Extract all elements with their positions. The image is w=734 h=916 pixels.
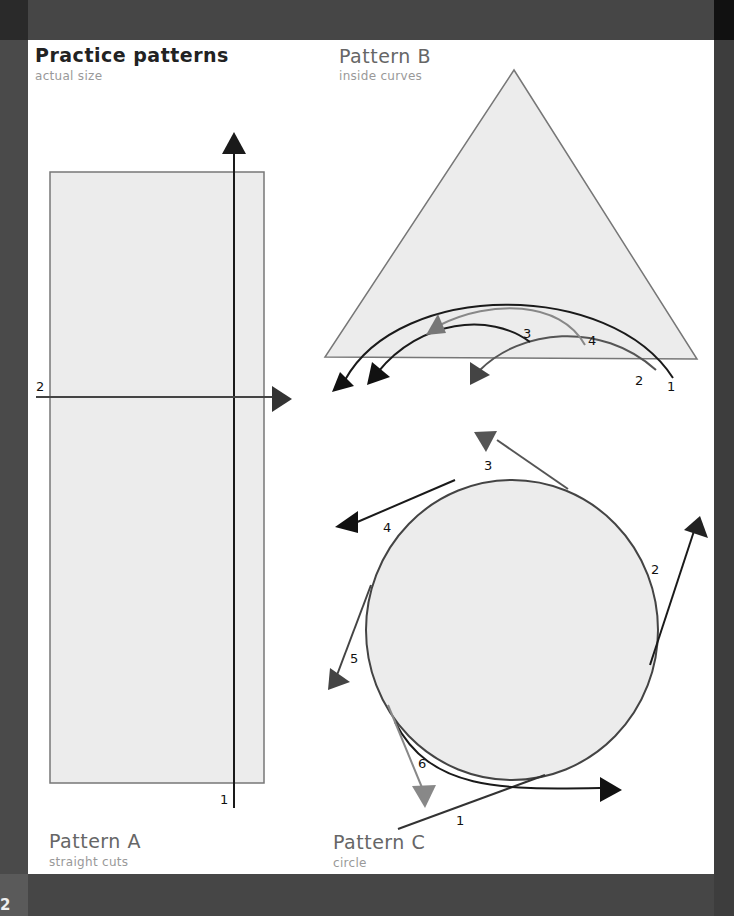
arrow-icon — [474, 431, 497, 452]
pattern-c-subtitle: circle — [333, 857, 367, 869]
pattern-c-cut-2: 2 — [650, 516, 708, 665]
pattern-a-subtitle: straight cuts — [49, 856, 128, 868]
svg-text:1: 1 — [220, 792, 228, 807]
svg-text:1: 1 — [667, 379, 675, 394]
arrow-up-icon — [222, 132, 246, 154]
pattern-b-shape — [325, 70, 697, 359]
page-title: Practice patterns — [35, 46, 229, 65]
pattern-b-subtitle: inside curves — [339, 70, 422, 82]
svg-text:5: 5 — [350, 651, 358, 666]
svg-text:1: 1 — [456, 813, 464, 828]
arrow-right-icon — [272, 386, 292, 412]
page-subtitle: actual size — [35, 70, 102, 82]
svg-text:6: 6 — [418, 756, 426, 771]
svg-text:4: 4 — [588, 333, 596, 348]
frame-right — [714, 0, 734, 916]
patterns-artwork: 1 2 1 2 3 4 — [28, 40, 714, 874]
pattern-a-shape — [50, 172, 264, 783]
arrow-icon — [684, 516, 708, 538]
pattern-a-title: Pattern A — [49, 832, 141, 851]
pattern-c-title: Pattern C — [333, 833, 425, 852]
arrow-icon — [367, 362, 390, 385]
svg-text:2: 2 — [635, 373, 643, 388]
frame-corner — [0, 0, 28, 40]
svg-text:2: 2 — [651, 562, 659, 577]
pattern-c-shape — [366, 480, 658, 780]
page: 1 2 1 2 3 4 — [28, 40, 714, 874]
svg-text:3: 3 — [484, 458, 492, 473]
svg-text:2: 2 — [36, 379, 44, 394]
svg-text:3: 3 — [523, 326, 531, 341]
frame-corner — [714, 0, 734, 40]
arrow-icon — [600, 777, 622, 802]
arrow-icon — [412, 785, 436, 808]
arrow-icon — [335, 511, 358, 533]
frame-left — [0, 0, 28, 916]
svg-text:4: 4 — [383, 520, 391, 535]
arrow-icon — [332, 372, 354, 392]
arrow-icon — [470, 362, 490, 385]
pattern-c-cut-5: 5 — [328, 585, 371, 690]
pattern-b-title: Pattern B — [339, 47, 431, 66]
page-number: 2 — [0, 896, 10, 914]
